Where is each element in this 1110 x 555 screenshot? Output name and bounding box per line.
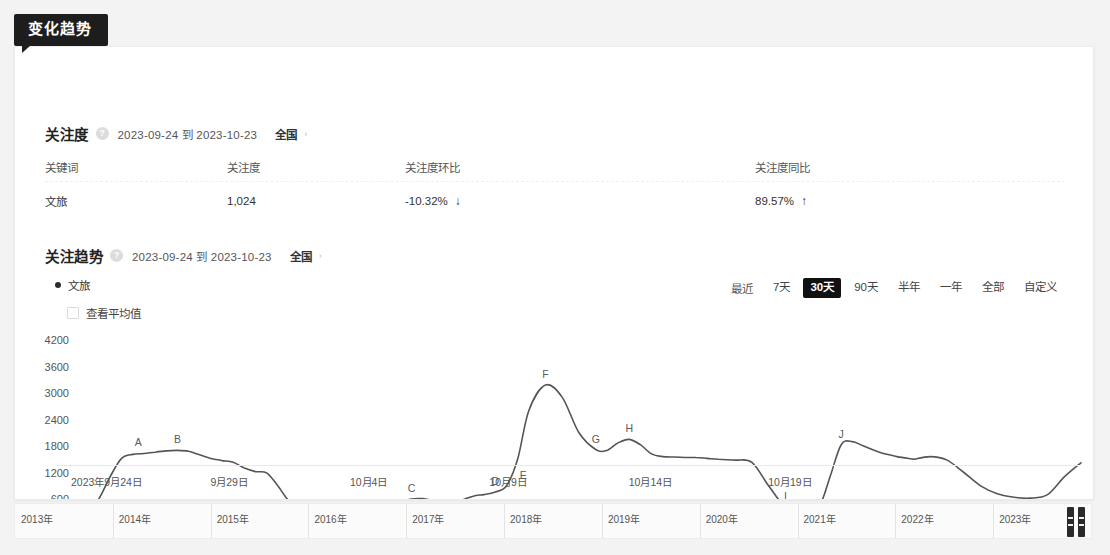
column-header-yoy: 关注度同比 <box>755 159 1055 175</box>
column-header-mom: 关注度环比 <box>405 159 755 175</box>
cell-keyword: 文旅 <box>45 193 227 209</box>
cell-mom-value: -10.32% <box>405 195 448 207</box>
average-toggle[interactable]: 查看平均值 <box>67 305 141 321</box>
y-axis-tick: 3600 <box>23 361 69 373</box>
timeline-year[interactable]: 2016年 <box>308 504 406 538</box>
cell-yoy: 89.57%↑ <box>755 194 1055 208</box>
data-point-label: H <box>625 422 633 434</box>
x-axis-tick: 10月19日 <box>768 474 811 489</box>
table-row: 文旅 1,024 -10.32%↓ 89.57%↑ <box>45 182 1065 220</box>
cell-yoy-value: 89.57% <box>755 195 794 207</box>
range-option-7d[interactable]: 7天 <box>766 278 797 298</box>
timeline-year[interactable]: 2018年 <box>504 504 602 538</box>
x-axis-tick: 10月4日 <box>350 474 388 489</box>
average-toggle-label: 查看平均值 <box>86 305 141 321</box>
question-mark-icon[interactable]: ? <box>96 127 109 140</box>
data-point-label: C <box>408 482 416 494</box>
timeline-year[interactable]: 2020年 <box>700 504 798 538</box>
attention-table: 关键词 关注度 关注度环比 关注度同比 文旅 1,024 -10.32%↓ 89… <box>45 153 1065 220</box>
y-axis-tick: 600 <box>23 493 69 500</box>
range-selector[interactable]: 最近 7天 30天 90天 半年 一年 全部 自定义 <box>731 278 1067 298</box>
question-mark-icon[interactable]: ? <box>110 249 123 262</box>
range-drag-handle[interactable] <box>1067 507 1085 537</box>
data-point-label: E <box>520 469 527 481</box>
column-header-attention: 关注度 <box>227 159 405 175</box>
cell-mom: -10.32%↓ <box>405 194 755 208</box>
timeline-year[interactable]: 2015年 <box>211 504 309 538</box>
data-point-label: B <box>174 433 181 445</box>
range-selector-label: 最近 <box>731 280 753 296</box>
range-option-90d[interactable]: 90天 <box>847 278 885 298</box>
attention-date-range: 2023-09-24 到 2023-10-23 <box>118 126 258 142</box>
chevron-right-icon[interactable]: › <box>304 129 307 139</box>
section-badge: 变化趋势 <box>14 14 108 46</box>
arrow-up-icon: ↑ <box>801 194 807 208</box>
range-option-all[interactable]: 全部 <box>975 278 1011 298</box>
chart-legend[interactable]: 文旅 <box>55 277 90 293</box>
legend-dot-icon <box>55 282 61 288</box>
trend-chart: 600120018002400300036004200 2023年9月24日9月… <box>15 47 1093 499</box>
y-axis-tick: 4200 <box>23 334 69 346</box>
data-point-label: G <box>592 433 600 445</box>
year-timeline[interactable]: 2013年 2014年 2015年 2016年 2017年 2018年 2019… <box>14 503 1092 539</box>
x-axis-tick: 10月9日 <box>489 474 527 489</box>
timeline-year[interactable]: 2022年 <box>895 504 993 538</box>
attention-section-title: 关注度 <box>45 123 89 144</box>
timeline-year[interactable]: 2021年 <box>798 504 896 538</box>
drag-handle-bar[interactable] <box>1078 507 1085 537</box>
timeline-year[interactable]: 2014年 <box>113 504 211 538</box>
checkbox-icon[interactable] <box>67 307 79 319</box>
y-axis-tick: 1800 <box>23 440 69 452</box>
x-axis-tick: 9月29日 <box>210 474 248 489</box>
trend-card: 关注度 ? 2023-09-24 到 2023-10-23 全国 › 关键词 关… <box>14 46 1094 500</box>
trend-line <box>77 385 914 499</box>
data-point-label: J <box>839 428 844 440</box>
data-point-label: D <box>492 475 500 487</box>
range-option-halfyear[interactable]: 半年 <box>891 278 927 298</box>
data-point-label: I <box>784 490 787 501</box>
x-axis-tick: 10月14日 <box>629 474 672 489</box>
timeline-year[interactable]: 2019年 <box>602 504 700 538</box>
legend-label: 文旅 <box>68 277 90 293</box>
range-option-custom[interactable]: 自定义 <box>1017 278 1064 298</box>
y-axis-tick: 3000 <box>23 387 69 399</box>
range-option-30d[interactable]: 30天 <box>803 278 841 298</box>
timeline-year[interactable]: 2013年 <box>15 504 113 538</box>
data-point-label: F <box>542 368 548 380</box>
timeline-year[interactable]: 2017年 <box>406 504 504 538</box>
cell-attention: 1,024 <box>227 195 405 207</box>
trend-date-range: 2023-09-24 到 2023-10-23 <box>132 248 272 264</box>
x-axis-line <box>57 465 1079 466</box>
x-axis-tick: 2023年9月24日 <box>71 474 142 489</box>
column-header-keyword: 关键词 <box>45 159 227 175</box>
drag-handle-bar[interactable] <box>1067 507 1074 537</box>
attention-section-header: 关注度 ? 2023-09-24 到 2023-10-23 全国 › <box>45 123 307 144</box>
chevron-right-icon[interactable]: › <box>319 251 322 261</box>
trend-section-title: 关注趋势 <box>45 245 103 266</box>
y-axis-tick: 1200 <box>23 467 69 479</box>
trend-chart-svg <box>15 47 1093 499</box>
range-option-year[interactable]: 一年 <box>933 278 969 298</box>
trend-line <box>914 457 1081 499</box>
data-point-label: A <box>135 436 142 448</box>
trend-section-header: 关注趋势 ? 2023-09-24 到 2023-10-23 全国 › <box>45 245 322 266</box>
table-header-row: 关键词 关注度 关注度环比 关注度同比 <box>45 153 1065 182</box>
y-axis-tick: 2400 <box>23 414 69 426</box>
trend-region-selector[interactable]: 全国 <box>290 248 312 264</box>
arrow-down-icon: ↓ <box>455 194 461 208</box>
attention-region-selector[interactable]: 全国 <box>275 126 297 142</box>
